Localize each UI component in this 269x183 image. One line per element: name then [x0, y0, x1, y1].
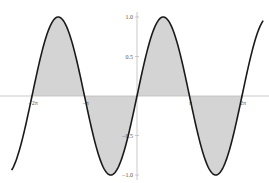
sine-area-plot: 1.00.5−0.5−1.0 −2π−ππ2π — [0, 0, 269, 183]
y-tick-label: 1.0 — [126, 14, 134, 20]
y-tick-label: 0.5 — [126, 54, 134, 60]
y-tick-label: −1.0 — [122, 172, 133, 178]
